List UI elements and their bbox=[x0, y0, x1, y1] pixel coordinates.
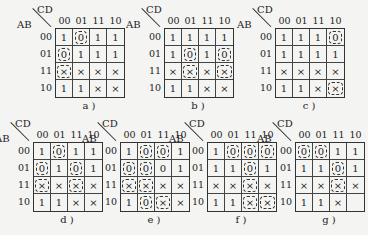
kmap-cell: 1 bbox=[208, 194, 225, 211]
kmap-cell: 1 bbox=[199, 46, 216, 63]
kmap-cell: × bbox=[107, 80, 124, 97]
cell-value: 1 bbox=[264, 163, 270, 174]
cell-value: × bbox=[212, 180, 220, 191]
column-header: 11 bbox=[90, 15, 107, 26]
cell-value: 1 bbox=[61, 83, 67, 94]
col-variable-label: CD bbox=[15, 118, 31, 129]
grouped-cell-value: × bbox=[183, 65, 197, 78]
kmap-cell: 1 bbox=[51, 194, 68, 211]
grouped-cell-value: 0 bbox=[332, 162, 344, 175]
kmap-corner-label: ABCD bbox=[257, 118, 297, 144]
kmap-cell: 1 bbox=[51, 160, 68, 177]
kmap-cell: 0 bbox=[138, 160, 155, 177]
grouped-cell-value: 0 bbox=[244, 162, 256, 175]
kmap-caption: g ) bbox=[295, 214, 363, 225]
cell-value: 1 bbox=[204, 49, 210, 60]
cell-value: 1 bbox=[170, 49, 176, 60]
cell-value: 1 bbox=[298, 83, 304, 94]
kmap-cell: 1 bbox=[259, 160, 276, 177]
kmap-cell: 0 bbox=[225, 143, 242, 160]
kmap-cell: 1 bbox=[313, 160, 330, 177]
row-header: 10 bbox=[276, 196, 292, 207]
cell-value: × bbox=[314, 83, 322, 94]
cell-value: × bbox=[176, 180, 184, 191]
kmap-cell: × bbox=[327, 80, 344, 97]
row-header: 10 bbox=[101, 196, 117, 207]
cell-value: 1 bbox=[170, 83, 176, 94]
kmap-cell: 1 bbox=[310, 29, 327, 46]
kmap-cell: 1 bbox=[73, 80, 90, 97]
kmap-cell: 1 bbox=[293, 46, 310, 63]
row-header: 00 bbox=[101, 145, 117, 156]
grouped-cell-value: × bbox=[243, 179, 257, 192]
kmap-cell: 1 bbox=[165, 80, 182, 97]
row-header: 01 bbox=[101, 162, 117, 173]
kmap-cell: 1 bbox=[68, 143, 85, 160]
kmap-caption: e ) bbox=[120, 214, 188, 225]
cell-value: × bbox=[89, 197, 97, 208]
kmap-cell: 1 bbox=[296, 194, 313, 211]
kmap-cell: 0 bbox=[259, 143, 276, 160]
column-header: 10 bbox=[216, 15, 233, 26]
col-variable-label: CD bbox=[146, 4, 162, 15]
cell-value: 1 bbox=[112, 32, 118, 43]
kmap-cell: 1 bbox=[85, 143, 102, 160]
cell-value: 1 bbox=[61, 32, 67, 43]
kmap-cell: 1 bbox=[121, 143, 138, 160]
row-header: 11 bbox=[256, 65, 272, 76]
kmap-cell: 1 bbox=[73, 46, 90, 63]
row-header: 00 bbox=[145, 31, 161, 42]
kmap-cell: 1 bbox=[165, 46, 182, 63]
kmap-cell: 0 bbox=[121, 160, 138, 177]
kmap-cell: 1 bbox=[310, 46, 327, 63]
grouped-cell-value: 0 bbox=[261, 145, 273, 158]
kmap-cell: × bbox=[155, 194, 172, 211]
kmap-cell: × bbox=[347, 177, 364, 194]
grouped-cell-value: 0 bbox=[36, 162, 48, 175]
cell-value: 1 bbox=[281, 49, 287, 60]
cell-value: × bbox=[203, 66, 211, 77]
cell-value: × bbox=[159, 180, 167, 191]
row-header: 00 bbox=[188, 145, 204, 156]
cell-value: × bbox=[111, 83, 119, 94]
grouped-cell-value: × bbox=[331, 179, 345, 192]
cell-value: × bbox=[94, 66, 102, 77]
row-header: 01 bbox=[276, 162, 292, 173]
kmap-corner-label: ABCD bbox=[126, 4, 166, 30]
row-header: 11 bbox=[36, 65, 52, 76]
cell-value: 1 bbox=[95, 32, 101, 43]
column-header: 11 bbox=[199, 15, 216, 26]
column-header: 00 bbox=[165, 15, 182, 26]
row-variable-label: AB bbox=[126, 19, 141, 30]
row-variable-label: AB bbox=[169, 133, 184, 144]
cell-value: 1 bbox=[187, 32, 193, 43]
kmap-cell: 0 bbox=[313, 143, 330, 160]
grouped-cell-value: 0 bbox=[218, 48, 230, 61]
kmap-cell: × bbox=[313, 177, 330, 194]
grouped-cell-value: 0 bbox=[140, 162, 152, 175]
cell-value: 1 bbox=[352, 146, 358, 157]
kmap-caption: a ) bbox=[55, 100, 123, 111]
kmap-cell: × bbox=[208, 177, 225, 194]
row-header: 00 bbox=[36, 31, 52, 42]
kmap-corner-label: ABCD bbox=[237, 4, 277, 30]
kmap-cell: × bbox=[165, 63, 182, 80]
kmap-caption: c ) bbox=[275, 100, 343, 111]
kmap-cell: 1 bbox=[347, 160, 364, 177]
cell-value: 1 bbox=[90, 163, 96, 174]
cell-value: 1 bbox=[90, 146, 96, 157]
kmap-cell: 1 bbox=[293, 29, 310, 46]
kmap-cell: × bbox=[199, 63, 216, 80]
kmap-grid: 00111101××××11× bbox=[295, 142, 365, 212]
kmap-cell: 0 bbox=[138, 194, 155, 211]
kmap-cell: 1 bbox=[208, 160, 225, 177]
kmap-cell: × bbox=[121, 177, 138, 194]
kmap-caption: f ) bbox=[207, 214, 275, 225]
cell-value: 1 bbox=[204, 32, 210, 43]
row-header: 01 bbox=[145, 48, 161, 59]
cell-value: 1 bbox=[315, 49, 321, 60]
kmap-cell: × bbox=[68, 177, 85, 194]
cell-value: × bbox=[169, 66, 177, 77]
kmap-cell: 0 bbox=[242, 160, 259, 177]
kmap-cell: 1 bbox=[313, 194, 330, 211]
